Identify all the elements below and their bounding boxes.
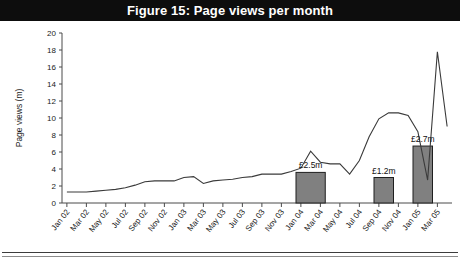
bar-value-label: £1.2m	[372, 166, 396, 176]
y-axis-title: Page views (m)	[14, 89, 24, 148]
x-tick-label: Mar 05	[420, 207, 443, 233]
x-tick-label: May 02	[87, 207, 111, 234]
chart-svg: 02468101214161820 Jan 02Mar 02May 02Jul …	[0, 21, 460, 262]
y-tick-label: 2	[52, 182, 57, 191]
x-tick-label: Nov 02	[146, 207, 169, 233]
x-tick-label: Sep 03	[244, 207, 267, 233]
bottom-rule-primary	[2, 252, 458, 253]
plot-area: 02468101214161820 Jan 02Mar 02May 02Jul …	[0, 21, 460, 262]
x-tick-label: Nov 03	[263, 207, 286, 233]
y-axis: 02468101214161820	[47, 29, 62, 208]
figure-title: Figure 15: Page views per month	[0, 0, 460, 21]
x-axis: Jan 02Mar 02May 02Jul 02Sep 02Nov 02Jan …	[50, 203, 452, 234]
bar-value-label: £2.7m	[411, 134, 435, 144]
y-tick-label: 0	[52, 199, 57, 208]
bar	[374, 178, 394, 204]
bottom-rule-secondary	[2, 256, 458, 257]
figure-title-bar: Figure 15: Page views per month	[0, 0, 460, 21]
y-tick-label: 6	[52, 148, 57, 157]
x-tick-label: May 04	[321, 207, 345, 234]
x-tick-label: Sep 02	[127, 207, 150, 233]
y-tick-label: 4	[52, 165, 57, 174]
y-tick-label: 14	[47, 80, 56, 89]
bar	[296, 172, 325, 203]
y-tick-label: 8	[52, 131, 57, 140]
x-tick-label: Nov 04	[380, 207, 403, 233]
y-tick-label: 18	[47, 46, 56, 55]
bar-series	[296, 146, 433, 203]
y-tick-label: 10	[47, 114, 56, 123]
figure-container: Figure 15: Page views per month 02468101…	[0, 0, 460, 262]
bar-value-label: £2.5m	[299, 160, 323, 170]
x-tick-label: Sep 04	[361, 207, 384, 233]
y-tick-label: 12	[47, 97, 56, 106]
y-axis-title-text: Page views (m)	[14, 89, 24, 148]
y-tick-label: 16	[47, 63, 56, 72]
y-tick-label: 20	[47, 29, 56, 38]
x-tick-label: May 03	[204, 207, 228, 234]
